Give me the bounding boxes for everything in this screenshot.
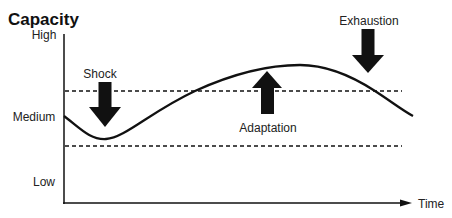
y-label-medium: Medium <box>13 110 56 124</box>
y-label-low: Low <box>33 175 55 189</box>
adaptation-arrow-icon <box>252 71 282 114</box>
exhaustion-label: Exhaustion <box>339 14 398 28</box>
x-axis-arrowhead-icon <box>400 200 412 207</box>
capacity-diagram: Capacity High Medium Low Time Shock Adap… <box>0 0 452 218</box>
diagram-title: Capacity <box>8 10 79 29</box>
shock-label: Shock <box>83 67 117 81</box>
x-axis-label: Time <box>418 197 445 211</box>
shock-arrow-icon <box>89 82 121 127</box>
exhaustion-arrow-icon <box>352 29 384 73</box>
y-label-high: High <box>32 28 57 42</box>
adaptation-label: Adaptation <box>239 121 296 135</box>
